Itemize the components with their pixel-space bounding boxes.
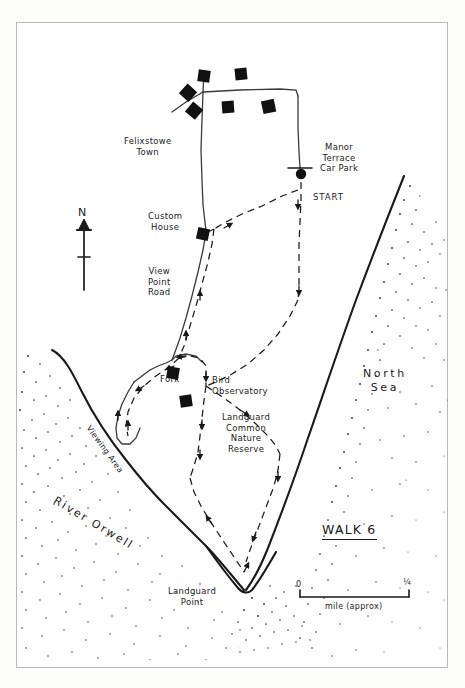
label-fork: Fork	[160, 374, 179, 385]
label-manor-terrace-car-park: Manor Terrace Car Park	[320, 142, 358, 174]
road-top-east	[203, 89, 298, 96]
route-fork-connector	[179, 356, 206, 386]
map-page: Felixstowe Town Custom House View Point …	[0, 0, 465, 688]
route-start-west-branch	[214, 190, 298, 229]
walk-title: WALK 6	[322, 522, 377, 540]
compass-north-label: N	[78, 206, 87, 220]
route-bird-observatory	[190, 386, 206, 478]
start-point-marker	[296, 169, 306, 179]
label-landguard-common-nature-reserve: Landguard Common Nature Reserve	[222, 412, 270, 455]
map-drawing	[0, 0, 465, 688]
road-manor-terrace	[298, 96, 300, 168]
label-landguard-point: Landguard Point	[168, 586, 216, 607]
label-felixstowe-town: Felixstowe Town	[124, 136, 172, 157]
scale-start-label: 0	[296, 580, 301, 590]
scale-bar-graphic	[300, 590, 409, 597]
label-start: START	[313, 192, 344, 203]
route-reserve-south	[246, 454, 280, 562]
label-bird-observatory: Bird Observatory	[212, 375, 268, 396]
route-east-descending	[206, 300, 298, 386]
landguard-point-stipple	[225, 585, 310, 653]
compass-rose	[77, 219, 91, 290]
river-orwell-stipple	[19, 355, 241, 661]
route-view-point-road	[179, 229, 214, 358]
label-view-point-road: View Point Road	[148, 266, 171, 298]
label-custom-house: Custom House	[148, 211, 182, 232]
route-direction-arrows	[118, 200, 299, 572]
label-north-sea: North Sea	[363, 367, 407, 395]
scale-end-label: ¼	[403, 578, 411, 588]
scale-caption: mile (approx)	[325, 602, 382, 612]
